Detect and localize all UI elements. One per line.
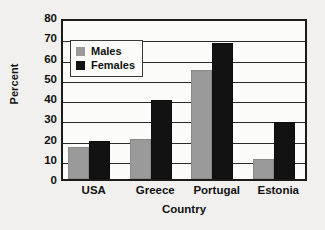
x-axis-title: Country (61, 203, 307, 215)
x-tick-label: USA (82, 184, 106, 196)
x-axis-tick-labels: USAGreecePortugalEstonia (61, 184, 307, 202)
y-tick-label: 10 (24, 155, 57, 167)
bar-estonia-females (274, 122, 295, 179)
y-tick-label: 0 (24, 175, 57, 187)
y-tick-label: 20 (24, 135, 57, 147)
y-tick-label: 70 (24, 34, 57, 46)
chart-legend: MalesFemales (70, 40, 143, 77)
x-tick-label: Portugal (193, 184, 240, 196)
x-tick-label: Estonia (257, 184, 299, 196)
bar-group (248, 21, 310, 179)
bar-chart-figure: Percent 80706050403020100 MalesFemales U… (0, 0, 325, 230)
bar-usa-females (89, 141, 110, 179)
x-tick-label: Greece (136, 184, 175, 196)
males-swatch-icon (76, 47, 85, 56)
y-tick-label: 60 (24, 54, 57, 66)
y-axis-tick-labels: 80706050403020100 (24, 19, 57, 181)
females-swatch-icon (76, 61, 85, 70)
y-axis-title: Percent (8, 44, 20, 124)
legend-entry: Males (76, 44, 135, 58)
bar-usa-males (68, 147, 89, 179)
y-tick-label: 40 (24, 94, 57, 106)
bar-group (186, 21, 248, 179)
bar-portugal-females (212, 43, 233, 179)
bar-portugal-males (191, 70, 212, 179)
y-tick-label: 30 (24, 115, 57, 127)
legend-label: Males (91, 46, 122, 57)
legend-label: Females (91, 60, 135, 71)
legend-entry: Females (76, 58, 135, 72)
bar-greece-females (151, 100, 172, 179)
y-tick-label: 50 (24, 74, 57, 86)
bar-estonia-males (253, 159, 274, 179)
bar-greece-males (130, 139, 151, 180)
y-tick-label: 80 (24, 13, 57, 25)
